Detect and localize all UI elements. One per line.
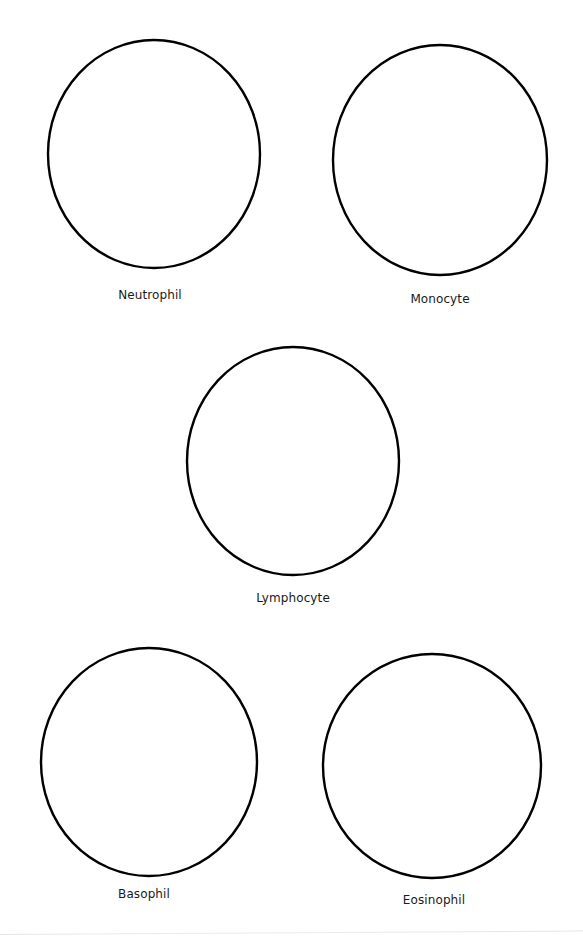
monocyte-label: Monocyte — [410, 292, 469, 306]
basophil-label: Basophil — [118, 887, 170, 901]
white-blood-cell-worksheet: Neutrophil Monocyte Lymphocyte Basophil … — [0, 0, 583, 940]
neutrophil-circle — [48, 40, 260, 268]
eosinophil-label: Eosinophil — [403, 893, 465, 907]
neutrophil-label: Neutrophil — [118, 288, 182, 302]
lymphocyte-circle — [187, 347, 399, 575]
basophil-circle — [41, 648, 257, 876]
eosinophil-circle — [323, 654, 541, 878]
monocyte-circle — [333, 45, 547, 275]
lymphocyte-label: Lymphocyte — [256, 591, 330, 605]
cell-outlines — [0, 0, 583, 940]
